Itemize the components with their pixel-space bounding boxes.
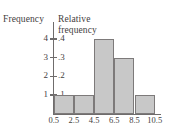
x-axis-tick-label: 4.5 — [83, 116, 105, 125]
y-axis-tick-label: 3 — [34, 53, 48, 62]
x-axis-tick-label: 0.5 — [43, 116, 65, 125]
y-axis-tick — [50, 38, 57, 39]
plot-area: Frequency Relative frequency 1.12.23.34.… — [0, 0, 173, 135]
y-axis-tick-label: 1 — [34, 90, 48, 99]
y-axis-tick — [50, 76, 57, 77]
histogram-bar — [135, 95, 155, 114]
y2-axis-tick-label: .2 — [58, 71, 74, 80]
y-axis-tick-label: 2 — [34, 71, 48, 80]
left-axis-title: Frequency — [3, 14, 44, 25]
y-axis-tick-label: 4 — [34, 34, 48, 43]
right-axis-title: Relative frequency — [58, 14, 97, 35]
x-axis-tick-label: 6.5 — [103, 116, 125, 125]
histogram-figure: Frequency Relative frequency 1.12.23.34.… — [0, 0, 173, 135]
x-axis-tick-label: 2.5 — [63, 116, 85, 125]
y2-axis-tick-label: .3 — [58, 53, 74, 62]
y-axis-tick — [50, 57, 57, 58]
x-axis-tick-label: 8.5 — [124, 116, 146, 125]
y2-axis-tick-label: .4 — [58, 34, 74, 43]
histogram-bar — [94, 39, 114, 114]
histogram-bar — [54, 95, 74, 114]
histogram-bar — [74, 95, 94, 114]
histogram-bar — [114, 58, 134, 114]
x-axis-tick-label: 10.5 — [144, 116, 166, 125]
